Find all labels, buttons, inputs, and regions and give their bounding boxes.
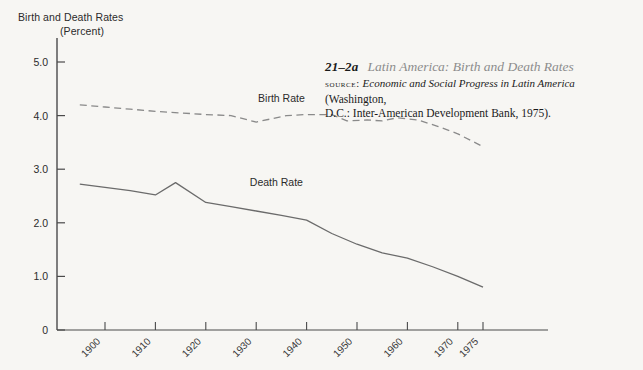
y-tick-label-5.0: 5.0	[33, 56, 48, 68]
series-label-death-rate: Death Rate	[250, 176, 303, 188]
caption-source: source: Economic and Social Progress in …	[325, 76, 637, 121]
x-tick-label-1960: 1960	[381, 335, 405, 359]
data-series-layer	[80, 105, 483, 287]
caption-source-rest: (Washington,	[325, 93, 386, 105]
caption-source-line2: D.C.: Inter-American Development Bank, 1…	[325, 107, 551, 119]
figure-page: Birth and Death Rates (Percent) 01.02.03…	[0, 0, 643, 370]
series-label-birth-rate: Birth Rate	[258, 92, 305, 104]
series-inline-labels: Birth RateDeath Rate	[250, 92, 305, 188]
y-tick-label-1.0: 1.0	[33, 270, 48, 282]
y-axis-ticks: 01.02.03.04.05.0	[33, 56, 65, 336]
caption-figure-number: 21–2a	[325, 59, 359, 74]
caption-source-word: source:	[325, 78, 360, 89]
y-tick-label-2.0: 2.0	[33, 217, 48, 229]
y-tick-label-0: 0	[42, 324, 48, 336]
caption-figure-title: Latin America: Birth and Death Rates	[368, 59, 574, 74]
y-tick-label-4.0: 4.0	[33, 110, 48, 122]
x-tick-label-1930: 1930	[230, 335, 254, 359]
line-chart: 01.02.03.04.05.0 19001910192019301940195…	[0, 0, 643, 370]
x-tick-label-1920: 1920	[180, 335, 204, 359]
y-tick-label-3.0: 3.0	[33, 163, 48, 175]
x-tick-label-1970: 1970	[432, 335, 456, 359]
series-line-death-rate	[80, 183, 483, 288]
x-axis-ticks: 190019101920193019401950196019701975	[79, 322, 483, 359]
x-tick-label-1950: 1950	[331, 335, 355, 359]
x-tick-label-1940: 1940	[281, 335, 305, 359]
figure-caption: 21–2aLatin America: Birth and Death Rate…	[325, 58, 637, 121]
x-tick-label-1900: 1900	[79, 335, 103, 359]
caption-headline: 21–2aLatin America: Birth and Death Rate…	[325, 58, 637, 75]
caption-source-title: Economic and Social Progress in Latin Am…	[363, 77, 575, 89]
x-tick-label-1975: 1975	[457, 335, 481, 359]
x-tick-label-1910: 1910	[129, 335, 153, 359]
